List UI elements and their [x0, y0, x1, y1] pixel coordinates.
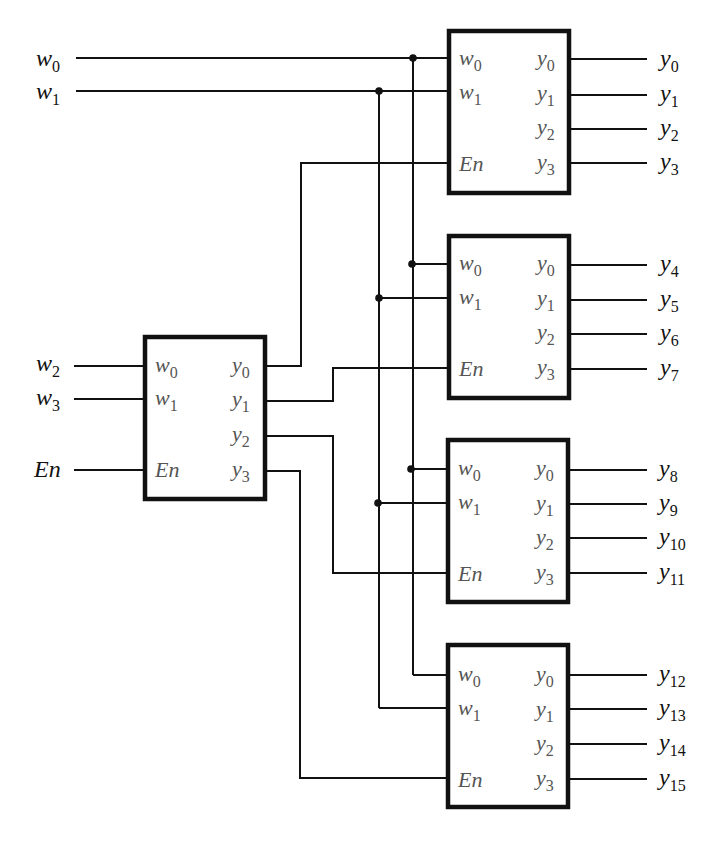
decoder-tree-diagram: w0 w1 w2 w3 En w0 w1 En y0 y1 y2 y3 w0 w… — [0, 0, 715, 841]
output-label-y15: y15 — [657, 764, 686, 794]
output-label-y8: y8 — [657, 455, 678, 485]
input-label-w3: w3 — [36, 384, 60, 414]
port-label-en: En — [457, 561, 482, 586]
output-label-y4: y4 — [658, 250, 679, 280]
port-label-en: En — [458, 356, 483, 381]
output-label-y12: y12 — [657, 660, 686, 690]
output-label-y0: y0 — [658, 45, 679, 75]
junction-dot — [375, 87, 383, 95]
output-label-y6: y6 — [658, 319, 679, 349]
junction-dot — [375, 294, 383, 302]
output-label-y5: y5 — [658, 285, 679, 315]
port-label-en: En — [457, 767, 482, 792]
junction-dot — [409, 54, 417, 62]
junction-dot — [408, 260, 416, 268]
output-label-y14: y14 — [657, 729, 686, 759]
port-label-en: En — [154, 457, 179, 482]
port-label-en: En — [458, 151, 483, 176]
output-label-y9: y9 — [657, 489, 678, 519]
wire-sel-y2-to-dec2-en — [265, 436, 448, 573]
input-label-w1: w1 — [36, 78, 60, 108]
input-label-w2: w2 — [36, 350, 60, 380]
output-label-y3: y3 — [658, 148, 679, 178]
junction-dot — [407, 465, 415, 473]
junction-dot — [374, 499, 382, 507]
wire-sel-y3-to-dec3-en — [265, 471, 448, 778]
input-label-en: En — [33, 456, 61, 482]
output-label-y10: y10 — [657, 523, 686, 553]
output-label-y13: y13 — [657, 694, 686, 724]
output-labels: y0 y1 y2 y3 y4 y5 y6 y7 y8 y9 y10 y11 y1… — [657, 45, 686, 794]
input-label-w0: w0 — [36, 45, 60, 75]
junctions — [374, 54, 417, 507]
output-label-y11: y11 — [657, 558, 685, 588]
output-label-y2: y2 — [658, 114, 679, 144]
output-label-y1: y1 — [658, 80, 679, 110]
wire-sel-y1-to-dec1-en — [265, 368, 448, 401]
output-label-y7: y7 — [658, 354, 679, 384]
